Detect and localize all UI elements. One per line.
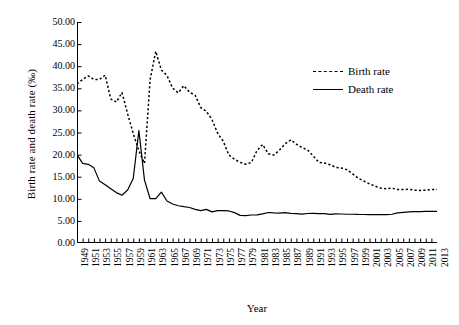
y-tick-label: 10.00 — [20, 194, 75, 204]
x-tick-label: 2003 — [384, 248, 394, 267]
x-axis-title: Year — [77, 302, 437, 314]
x-tick-label: 1971 — [204, 248, 214, 267]
y-tick-label: 40.00 — [20, 61, 75, 71]
x-tick-label: 1955 — [114, 248, 124, 267]
x-axis-tick-labels: 1949195119531955195719591961196319651967… — [77, 248, 437, 300]
x-tick-label: 1987 — [294, 248, 304, 267]
y-tick-label: 5.00 — [20, 216, 75, 226]
x-tick-label: 2001 — [373, 248, 383, 267]
x-tick-label: 1963 — [159, 248, 169, 267]
y-tick-label: 0.00 — [20, 238, 75, 248]
legend-swatch-dashed-icon — [313, 71, 343, 72]
x-tick-label: 1983 — [272, 248, 282, 267]
x-tick-label: 1993 — [328, 248, 338, 267]
y-tick-label: 35.00 — [20, 83, 75, 93]
x-tick-label: 1973 — [216, 248, 226, 267]
y-tick-label: 30.00 — [20, 105, 75, 115]
x-tick-label: 1979 — [249, 248, 259, 267]
x-tick-label: 1997 — [351, 248, 361, 267]
x-tick-label: 1977 — [238, 248, 248, 267]
legend-item-birth-rate: Birth rate — [313, 64, 418, 80]
x-tick-label: 1961 — [148, 248, 158, 267]
x-tick-label: 1969 — [193, 248, 203, 267]
x-tick-label: 1981 — [261, 248, 271, 267]
plot-area — [77, 22, 437, 243]
y-tick-label: 20.00 — [20, 150, 75, 160]
y-tick-label: 45.00 — [20, 39, 75, 49]
x-tick-label: 2009 — [418, 248, 428, 267]
x-tick-label: 1995 — [339, 248, 349, 267]
x-tick-label: 2007 — [407, 248, 417, 267]
legend-item-death-rate: Death rate — [313, 82, 418, 98]
x-tick-label: 1953 — [103, 248, 113, 267]
y-tick-label: 25.00 — [20, 128, 75, 138]
x-tick-label: 1991 — [317, 248, 327, 267]
y-axis-tick-labels: 0.005.0010.0015.0020.0025.0030.0035.0040… — [18, 0, 75, 325]
chart-legend: Birth rate Death rate — [313, 64, 418, 104]
chart-figure: Birth rate and death rate (‰) 0.005.0010… — [0, 0, 459, 325]
x-tick-label: 1965 — [171, 248, 181, 267]
legend-swatch-solid-icon — [313, 89, 343, 90]
legend-label: Birth rate — [348, 64, 390, 79]
chart-svg — [77, 22, 437, 243]
x-tick-label: 1985 — [283, 248, 293, 267]
x-tick-label: 1957 — [126, 248, 136, 267]
y-tick-label: 50.00 — [20, 17, 75, 27]
x-tick-label: 1959 — [137, 248, 147, 267]
series-line-death-rate — [77, 131, 437, 216]
x-tick-label: 2013 — [441, 248, 451, 267]
x-tick-label: 1989 — [306, 248, 316, 267]
y-tick-label: 15.00 — [20, 172, 75, 182]
x-tick-label: 1949 — [81, 248, 91, 267]
x-tick-label: 2011 — [429, 248, 439, 267]
legend-label: Death rate — [348, 82, 394, 97]
x-tick-label: 2005 — [396, 248, 406, 267]
x-tick-label: 1975 — [227, 248, 237, 267]
x-tick-label: 1951 — [92, 248, 102, 267]
x-tick-label: 1967 — [182, 248, 192, 267]
x-tick-label: 1999 — [362, 248, 372, 267]
